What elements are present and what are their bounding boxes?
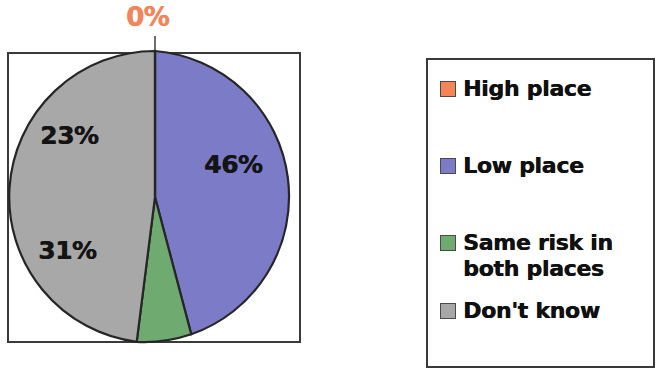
legend-label-same-risk: Same risk inboth places	[463, 230, 613, 282]
legend-swatch-blue-icon	[440, 158, 456, 174]
legend-swatch-gray-icon	[440, 303, 456, 319]
chart-page: 46% 31% 23% 0% High place Low place Same…	[0, 0, 660, 376]
pie-value-label-same-risk: 31%	[38, 236, 96, 265]
legend-label-dont-know: Don't know	[463, 298, 600, 324]
legend-item-high-place[interactable]: High place	[440, 76, 591, 102]
legend-label-low-place: Low place	[463, 153, 584, 179]
pie-value-label-high-place: 0%	[126, 2, 169, 32]
legend-item-low-place[interactable]: Low place	[440, 153, 584, 179]
legend-swatch-green-icon	[440, 235, 456, 251]
pie-slice-dont-know[interactable]	[9, 51, 155, 342]
pie-value-label-low-place: 46%	[204, 150, 262, 179]
legend-swatch-orange-icon	[440, 81, 456, 97]
pie-value-label-dont-know: 23%	[40, 121, 98, 150]
legend: High place Low place Same risk inboth pl…	[440, 58, 656, 368]
legend-label-same-risk-line1: Same risk in	[463, 230, 613, 255]
pie-chart-panel: 46% 31% 23% 0%	[0, 0, 330, 376]
legend-label-high-place: High place	[463, 76, 591, 102]
legend-label-same-risk-line2: both places	[463, 256, 604, 281]
pie-chart-graphic	[0, 0, 330, 376]
legend-item-same-risk[interactable]: Same risk inboth places	[440, 230, 613, 282]
legend-item-dont-know[interactable]: Don't know	[440, 298, 600, 324]
